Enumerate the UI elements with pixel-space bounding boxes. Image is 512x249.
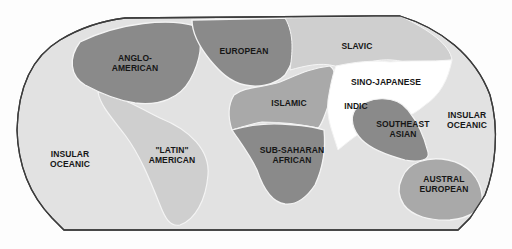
label-line: OCEANIC xyxy=(50,159,90,169)
label-anglo-american: ANGLO- AMERICAN xyxy=(112,54,159,73)
label-indic: INDIC xyxy=(344,102,368,112)
map-canvas xyxy=(0,0,512,249)
label-sub-saharan-african: SUB-SAHARAN AFRICAN xyxy=(260,146,324,165)
label-line: OCEANIC xyxy=(447,120,487,130)
label-line: EUROPEAN xyxy=(220,47,269,57)
label-line: AMERICAN xyxy=(149,155,196,165)
label-islamic: ISLAMIC xyxy=(271,99,307,109)
label-slavic: SLAVIC xyxy=(341,42,372,52)
label-line: EUROPEAN xyxy=(420,184,469,194)
label-line: AFRICAN xyxy=(260,155,324,165)
label-line: SLAVIC xyxy=(341,42,372,52)
label-european: EUROPEAN xyxy=(220,47,269,57)
label-latin-american: "LATIN" AMERICAN xyxy=(149,146,196,165)
label-insular-oceanic-east: INSULAR OCEANIC xyxy=(447,111,487,130)
label-line: AMERICAN xyxy=(112,63,159,73)
label-line: INDIC xyxy=(344,102,368,112)
label-sino-japanese: SINO-JAPANESE xyxy=(351,78,421,88)
label-southeast-asian: SOUTHEAST ASIAN xyxy=(376,120,429,139)
label-line: ASIAN xyxy=(376,129,429,139)
world-culture-realms-map: ANGLO- AMERICAN EUROPEAN SLAVIC SINO-JAP… xyxy=(0,0,512,249)
label-line: SINO-JAPANESE xyxy=(351,78,421,88)
label-insular-oceanic-west: INSULAR OCEANIC xyxy=(50,150,90,169)
label-austral-european: AUSTRAL EUROPEAN xyxy=(420,175,469,194)
label-line: ISLAMIC xyxy=(271,99,307,109)
